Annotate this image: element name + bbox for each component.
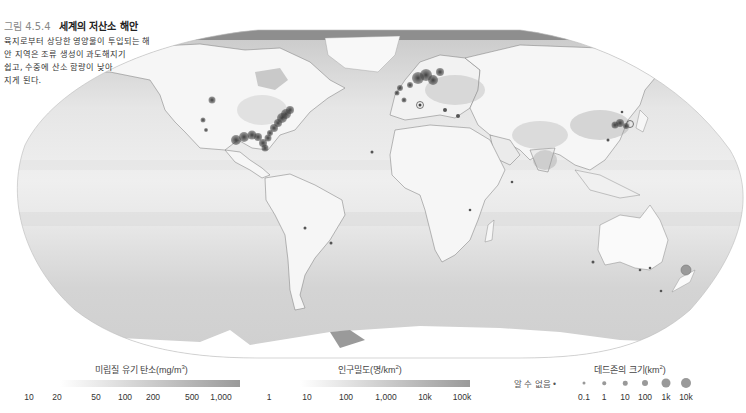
figure-title: 그림 4.5.4세계의 저산소 해안 — [4, 20, 164, 34]
deadzone-marker — [649, 267, 652, 270]
deadzone-marker — [209, 97, 216, 104]
deadzone-dot-10k — [681, 378, 691, 388]
deadzone-marker — [592, 261, 595, 264]
deadzone-marker — [204, 128, 208, 132]
carbon-tick: 500 — [185, 392, 199, 402]
description-line: 쉽고, 수중에 산소 함량이 낮아 — [4, 61, 164, 74]
population-gradient-bar — [300, 380, 470, 387]
carbon-tick: 20 — [52, 392, 61, 402]
figure-name: 세계의 저산소 해안 — [59, 21, 138, 32]
carbon-gradient-bar — [60, 380, 240, 387]
carbon-tick: 200 — [146, 392, 160, 402]
carbon-tick: 50 — [91, 392, 100, 402]
deadzone-marker — [201, 118, 206, 123]
population-tick: 1 — [267, 392, 272, 402]
deadzone-marker — [330, 242, 333, 245]
carbon-tick: 100 — [118, 392, 132, 402]
deadzone-tick: 1 — [602, 392, 607, 402]
deadzone-tick: 0.1 — [578, 392, 590, 402]
legend-deadzone-title: 데드존의 크기(km2) — [594, 363, 666, 376]
legend-carbon-title: 미립질 유기 탄소(mg/m3) — [95, 363, 188, 376]
deadzone-marker — [681, 265, 691, 275]
deadzone-marker — [469, 209, 472, 212]
deadzone-marker — [639, 269, 642, 272]
figure-description: 육지로부터 상당한 영양물이 투입되는 해 안 지역은 조류 생성이 과도해지기… — [4, 35, 164, 87]
carbon-tick: 1,000 — [210, 392, 231, 402]
deadzone-marker — [511, 181, 514, 184]
deadzone-dot-10 — [623, 381, 628, 386]
deadzone-marker — [304, 227, 307, 230]
population-tick: 10k — [418, 392, 432, 402]
population-tick: 10 — [302, 392, 311, 402]
deadzone-unknown-label: 알 수 없음 • — [514, 377, 556, 389]
deadzone-dot-1 — [602, 381, 606, 385]
description-line: 지게 된다. — [4, 74, 164, 87]
figure-caption: 그림 4.5.4세계의 저산소 해안 육지로부터 상당한 영양물이 투입되는 해… — [4, 20, 164, 87]
population-tick: 1,000 — [375, 392, 396, 402]
population-tick: 100k — [453, 392, 471, 402]
deadzone-dot-0.1 — [583, 382, 586, 385]
deadzone-tick: 1k — [662, 392, 671, 402]
figure-number: 그림 4.5.4 — [4, 21, 51, 32]
legend-population-title: 인구밀도(명/km2) — [338, 363, 402, 376]
deadzone-marker — [371, 151, 374, 154]
deadzone-marker — [660, 290, 663, 293]
deadzone-tick: 10k — [679, 392, 693, 402]
deadzone-tick: 100 — [638, 392, 652, 402]
deadzone-dot-100 — [642, 380, 648, 386]
deadzone-dot-1k — [662, 379, 671, 388]
deadzone-tick: 10 — [620, 392, 629, 402]
description-line: 안 지역은 조류 생성이 과도해지기 — [4, 48, 164, 61]
population-tick: 100 — [339, 392, 353, 402]
carbon-tick: 10 — [24, 392, 33, 402]
description-line: 육지로부터 상당한 영양물이 투입되는 해 — [4, 35, 164, 48]
